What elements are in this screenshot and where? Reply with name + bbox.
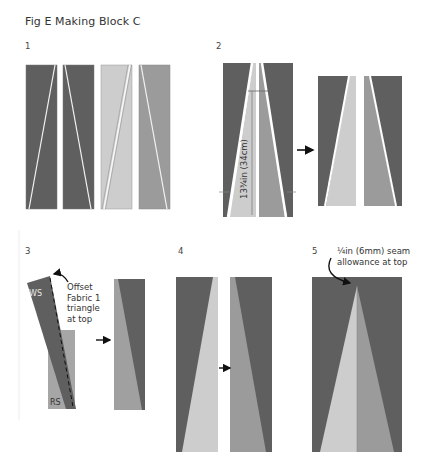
step-3-ws-label: WS xyxy=(29,289,42,298)
step-2-measurement: 13¾in (34cm) xyxy=(239,139,249,199)
step-2-cut-strips: 13¾in (34cm) xyxy=(219,63,296,217)
step-3-rs-label: RS xyxy=(50,398,61,407)
step-3-result-strip xyxy=(114,279,145,410)
step-2-result-strips xyxy=(318,76,402,206)
step-5-block xyxy=(312,258,402,452)
step-3-sewing: WS RS xyxy=(27,274,76,409)
step-4-strips xyxy=(176,277,272,452)
curved-arrow-icon xyxy=(54,274,68,282)
step-1-strips xyxy=(26,65,170,209)
figure-canvas: 13¾in (34cm) WS RS xyxy=(0,0,427,471)
